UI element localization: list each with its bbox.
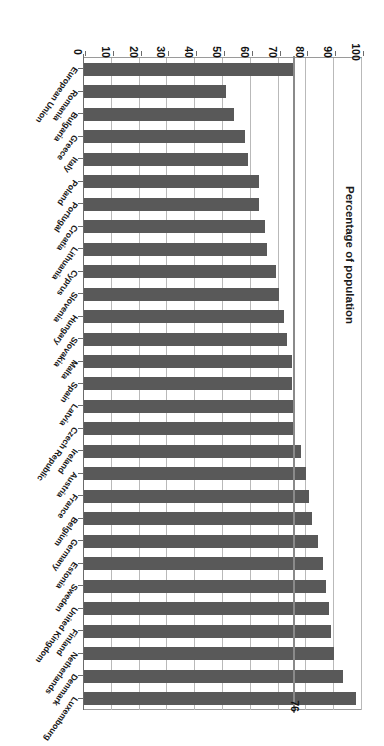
category-tick-21 bbox=[78, 226, 83, 227]
bar-spain[interactable] bbox=[84, 378, 293, 391]
category-tick-16 bbox=[78, 338, 83, 339]
plot-wrapper: Percentage of population 010203040506070… bbox=[0, 0, 384, 746]
category-tick-8 bbox=[78, 518, 83, 519]
bar-poland[interactable] bbox=[84, 175, 259, 188]
category-tick-0 bbox=[78, 698, 83, 699]
eu-average-reference-label: 76 bbox=[289, 692, 301, 720]
bar-denmark[interactable] bbox=[84, 670, 343, 683]
bar-croatia[interactable] bbox=[84, 220, 265, 233]
bar-malta[interactable] bbox=[84, 355, 293, 368]
category-tick-14 bbox=[78, 383, 83, 384]
category-tick-25 bbox=[78, 136, 83, 137]
value-tick-label-90: 90 bbox=[322, 38, 334, 66]
category-label-latvia: Latvia bbox=[58, 403, 80, 429]
category-tick-17 bbox=[78, 316, 83, 317]
bar-bulgaria[interactable] bbox=[84, 108, 234, 121]
bar-sweden[interactable] bbox=[84, 580, 326, 593]
bar-czech-republic[interactable] bbox=[84, 422, 295, 435]
bar-romania[interactable] bbox=[84, 85, 226, 98]
bar-austria[interactable] bbox=[84, 467, 306, 480]
category-tick-27 bbox=[78, 91, 83, 92]
bar-latvia[interactable] bbox=[84, 400, 295, 413]
value-tick-label-100: 100 bbox=[350, 38, 362, 66]
bar-france[interactable] bbox=[84, 490, 309, 503]
bar-slovenia[interactable] bbox=[84, 288, 279, 301]
bar-greece[interactable] bbox=[84, 130, 245, 143]
category-tick-23 bbox=[78, 181, 83, 182]
category-tick-2 bbox=[78, 653, 83, 654]
eu-average-reference-line bbox=[293, 56, 295, 713]
tick-70 bbox=[280, 51, 281, 56]
category-label-spain: Spain bbox=[58, 380, 80, 405]
bar-luxembourg[interactable] bbox=[84, 692, 356, 705]
bar-ireland[interactable] bbox=[84, 445, 301, 458]
bar-netherlands[interactable] bbox=[84, 647, 334, 660]
tick-80 bbox=[307, 51, 308, 56]
chart-canvas: Percentage of population 010203040506070… bbox=[0, 0, 384, 746]
tick-100 bbox=[363, 51, 364, 56]
bar-germany[interactable] bbox=[84, 535, 318, 548]
category-tick-6 bbox=[78, 563, 83, 564]
value-tick-label-0: 0 bbox=[72, 38, 84, 66]
category-tick-19 bbox=[78, 271, 83, 272]
bar-united-kingdom[interactable] bbox=[84, 602, 329, 615]
category-tick-12 bbox=[78, 428, 83, 429]
gridline-100 bbox=[361, 58, 362, 710]
tick-90 bbox=[335, 51, 336, 56]
bar-portugal[interactable] bbox=[84, 198, 259, 211]
category-tick-10 bbox=[78, 473, 83, 474]
gridline-90 bbox=[333, 58, 334, 710]
tick-0 bbox=[85, 51, 86, 56]
bar-belgium[interactable] bbox=[84, 512, 312, 525]
axis-title: Percentage of population bbox=[344, 186, 356, 356]
bar-lithuania[interactable] bbox=[84, 243, 267, 256]
bar-slovakia[interactable] bbox=[84, 333, 287, 346]
bar-italy[interactable] bbox=[84, 153, 248, 166]
tick-20 bbox=[141, 51, 142, 56]
bar-estonia[interactable] bbox=[84, 557, 323, 570]
category-tick-18 bbox=[78, 293, 83, 294]
tick-10 bbox=[113, 51, 114, 56]
category-tick-4 bbox=[78, 608, 83, 609]
rotated-figure: Percentage of population 010203040506070… bbox=[0, 0, 384, 746]
tick-60 bbox=[252, 51, 253, 56]
tick-50 bbox=[224, 51, 225, 56]
bar-european-union[interactable] bbox=[84, 63, 295, 76]
bar-cyprus[interactable] bbox=[84, 265, 276, 278]
category-tick-15 bbox=[78, 361, 83, 362]
bar-hungary[interactable] bbox=[84, 310, 284, 323]
tick-30 bbox=[168, 51, 169, 56]
value-tick-label-80: 80 bbox=[294, 38, 306, 66]
tick-40 bbox=[196, 51, 197, 56]
